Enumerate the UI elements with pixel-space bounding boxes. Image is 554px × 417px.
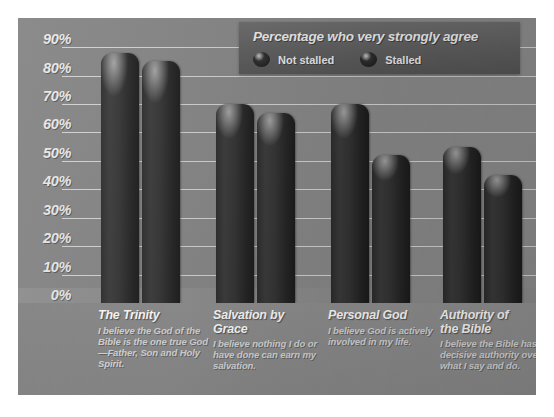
category-cell: Authority ofthe BibleI believe the Bible… [440, 309, 536, 372]
legend: Percentage who very strongly agree Not s… [239, 22, 520, 74]
legend-item: Stalled [360, 52, 421, 67]
category-title: Salvation byGrace [213, 309, 323, 336]
category-label-strip: The TrinityI believe the God of the Bibl… [18, 303, 536, 395]
bar [142, 61, 180, 303]
bar [484, 175, 522, 303]
category-cell: Salvation byGraceI believe nothing I do … [213, 309, 323, 372]
bar [331, 104, 369, 303]
legend-swatch-icon [360, 52, 377, 67]
chart-panel: 0%10%20%30%40%50%60%70%80%90% Percentage… [18, 18, 536, 395]
legend-items: Not stalledStalled [253, 52, 447, 67]
legend-item-label: Stalled [385, 54, 421, 66]
category-cell: The TrinityI believe the God of the Bibl… [98, 309, 208, 369]
bar [372, 155, 410, 303]
category-title: Personal God [328, 309, 438, 323]
legend-item-label: Not stalled [278, 54, 334, 66]
legend-item: Not stalled [253, 52, 334, 67]
category-description: I believe the Bible has decisive authori… [440, 338, 536, 372]
category-description: I believe the God of the Bible is the on… [98, 325, 208, 370]
category-description: I believe God is actively involved in my… [328, 325, 438, 347]
chart-root: 0%10%20%30%40%50%60%70%80%90% Percentage… [0, 0, 554, 417]
category-title: Authority ofthe Bible [440, 309, 536, 336]
legend-title: Percentage who very strongly agree [253, 29, 478, 44]
legend-swatch-icon [253, 52, 270, 67]
bar [216, 104, 254, 303]
bar [443, 147, 481, 303]
bar [101, 53, 139, 303]
category-cell: Personal GodI believe God is actively in… [328, 309, 438, 347]
category-description: I believe nothing I do or have done can … [213, 338, 323, 372]
bar [257, 113, 295, 303]
category-title: The Trinity [98, 309, 208, 323]
